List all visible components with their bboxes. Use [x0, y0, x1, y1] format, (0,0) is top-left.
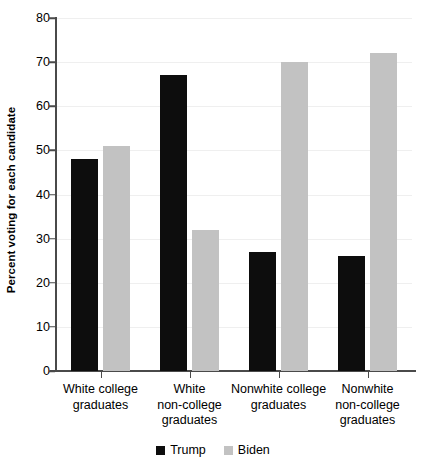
y-tick-label: 60: [36, 99, 50, 113]
y-tick-mark: [49, 370, 55, 372]
bar-biden-0: [103, 146, 130, 371]
bar-trump-0: [71, 159, 98, 371]
y-tick-label: 70: [36, 55, 50, 69]
x-group-label: Nonwhite collegegraduates: [231, 382, 326, 413]
legend-label: Trump: [170, 443, 206, 457]
y-tick-label: 40: [36, 188, 50, 202]
y-tick-label: 10: [36, 320, 50, 334]
bars-layer: [56, 18, 412, 371]
y-tick-mark: [49, 282, 55, 284]
bar-biden-2: [281, 62, 308, 371]
x-tick-mark: [368, 371, 370, 378]
x-group-label: Whitenon-collegegraduates: [157, 382, 222, 429]
x-tick-mark: [279, 371, 281, 378]
y-tick-mark: [49, 326, 55, 328]
x-group-label: White collegegraduates: [63, 382, 138, 413]
y-tick-mark: [49, 150, 55, 152]
bar-trump-1: [160, 75, 187, 371]
y-tick-label: 20: [36, 276, 50, 290]
bar-biden-3: [370, 53, 397, 371]
legend-entry-trump[interactable]: Trump: [156, 443, 206, 457]
y-tick-label: 80: [36, 11, 50, 25]
legend-swatch-icon: [224, 446, 233, 455]
bar-chart: Percent voting for each candidate 010203…: [0, 0, 426, 466]
legend-label: Biden: [238, 443, 270, 457]
legend-swatch-icon: [156, 446, 165, 455]
y-tick-mark: [49, 238, 55, 240]
x-tick-mark: [101, 371, 103, 378]
x-group-label: Nonwhitenon-collegegraduates: [335, 382, 400, 429]
y-axis-ticks: 01020304050607080: [0, 0, 50, 466]
bar-trump-3: [338, 256, 365, 371]
y-tick-mark: [49, 17, 55, 19]
y-tick-mark: [49, 61, 55, 63]
x-tick-mark: [190, 371, 192, 378]
bar-biden-1: [192, 230, 219, 371]
x-axis-labels: White collegegraduatesWhitenon-collegegr…: [56, 382, 412, 437]
legend-entry-biden[interactable]: Biden: [224, 443, 270, 457]
bar-trump-2: [249, 252, 276, 371]
chart-legend: TrumpBiden: [0, 443, 426, 457]
y-tick-label: 50: [36, 143, 50, 157]
y-tick-mark: [49, 106, 55, 108]
y-tick-mark: [49, 194, 55, 196]
y-tick-label: 30: [36, 232, 50, 246]
